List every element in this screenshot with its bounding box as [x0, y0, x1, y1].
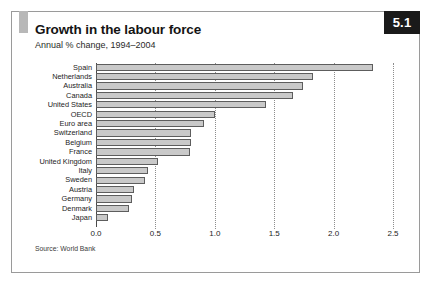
bar [96, 73, 313, 80]
gridline-2.5 [393, 63, 394, 229]
bar [96, 82, 303, 89]
source-note: Source: World Bank [35, 245, 95, 252]
bar [96, 64, 373, 71]
category-label: Canada [66, 91, 92, 100]
plot-area: 0.00.51.01.52.02.5SpainNetherlandsAustra… [96, 63, 393, 223]
bar-row: Euro area [96, 119, 393, 128]
bar-row: Belgium [96, 138, 393, 147]
bar-row: United States [96, 101, 393, 110]
category-label: Denmark [62, 204, 92, 213]
bar [96, 148, 190, 155]
bar-row: Switzerland [96, 129, 393, 138]
category-label: Austria [69, 185, 92, 194]
figure-panel: 5.1 Growth in the labour force Annual % … [11, 11, 420, 273]
category-label: Germany [62, 194, 92, 203]
category-label: Euro area [60, 119, 92, 128]
bar [96, 158, 158, 165]
category-label: Belgium [65, 138, 92, 147]
category-label: United Kingdom [39, 157, 92, 166]
x-axis-tick-label: 2.0 [328, 229, 339, 238]
bar-row: United Kingdom [96, 157, 393, 166]
category-label: Japan [72, 213, 92, 222]
category-label: Netherlands [52, 72, 92, 81]
bar [96, 120, 204, 127]
bar [96, 205, 129, 212]
bar [96, 186, 134, 193]
bar [96, 101, 266, 108]
x-axis-tick-label: 1.0 [209, 229, 220, 238]
category-label: Spain [73, 63, 92, 72]
category-label: United States [48, 100, 92, 109]
bar-row: Japan [96, 214, 393, 223]
bar-row: Canada [96, 91, 393, 100]
bar [96, 177, 145, 184]
x-axis-tick-label: 0.0 [90, 229, 101, 238]
bar [96, 195, 132, 202]
bar [96, 139, 191, 146]
bar-row: Germany [96, 195, 393, 204]
bar-row: Denmark [96, 204, 393, 213]
chart-title: Growth in the labour force [35, 22, 201, 37]
x-axis-tick-label: 1.5 [269, 229, 280, 238]
category-label: Switzerland [54, 128, 92, 137]
x-axis-tick-label: 0.5 [150, 229, 161, 238]
bar-row: Spain [96, 63, 393, 72]
figure-number-badge: 5.1 [384, 11, 420, 34]
bar-row: Australia [96, 82, 393, 91]
x-axis-tick-label: 2.5 [387, 229, 398, 238]
bar [96, 214, 108, 221]
bar-row: Italy [96, 167, 393, 176]
bar [96, 129, 191, 136]
bar [96, 111, 215, 118]
bar-row: OECD [96, 110, 393, 119]
chart-subtitle: Annual % change, 1994–2004 [35, 40, 156, 50]
bar-row: Netherlands [96, 72, 393, 81]
bar [96, 92, 293, 99]
category-label: France [69, 147, 92, 156]
bar-row: France [96, 148, 393, 157]
category-label: Sweden [65, 175, 92, 184]
accent-block [19, 11, 28, 33]
bar-row: Sweden [96, 176, 393, 185]
bar [96, 167, 148, 174]
category-label: Australia [63, 81, 92, 90]
category-label: Italy [78, 166, 92, 175]
category-label: OECD [71, 110, 92, 119]
bar-row: Austria [96, 185, 393, 194]
